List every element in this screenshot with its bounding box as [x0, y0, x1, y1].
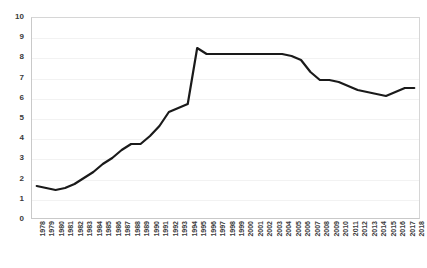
x-axis-tick-label: 1983 [86, 221, 93, 237]
x-axis-tick-label: 1984 [96, 221, 103, 237]
x-axis-tick-label: 1979 [48, 221, 55, 237]
x-axis-tick-label: 1986 [115, 221, 122, 237]
x-axis-tick-label: 2000 [247, 221, 254, 237]
x-axis-tick-label: 2009 [333, 221, 340, 237]
y-axis-tick-label: 5 [20, 114, 24, 122]
x-axis-tick-label: 1991 [162, 221, 169, 237]
x-axis-tick-label: 2005 [295, 221, 302, 237]
x-axis-tick-label: 2002 [266, 221, 273, 237]
y-axis-tick-label: 10 [15, 13, 24, 21]
x-axis-tick-label: 1990 [153, 221, 160, 237]
x-axis-tick-label: 1989 [143, 221, 150, 237]
x-axis-tick-label: 2012 [361, 221, 368, 237]
x-axis-tick-label: 1994 [191, 221, 198, 237]
x-axis-tick-label: 1999 [238, 221, 245, 237]
y-axis-tick-label: 1 [20, 195, 24, 203]
x-axis-tick-label: 2001 [257, 221, 264, 237]
x-axis-tick-label: 2014 [380, 221, 387, 237]
y-axis-tick-label: 2 [20, 175, 24, 183]
x-axis-tick-label: 2016 [399, 221, 406, 237]
plot-area [31, 17, 420, 219]
x-axis: 1978197919801981198219831984198519861987… [31, 221, 420, 268]
series-polyline [37, 48, 415, 190]
x-axis-tick-label: 2018 [418, 221, 425, 237]
y-axis-tick-label: 8 [20, 53, 24, 61]
data-series-line [32, 18, 419, 218]
x-axis-tick-label: 1982 [77, 221, 84, 237]
x-axis-tick-label: 2011 [352, 221, 359, 236]
y-axis-tick-label: 6 [20, 94, 24, 102]
x-axis-tick-label: 1995 [200, 221, 207, 237]
x-axis-tick-label: 1996 [210, 221, 217, 237]
x-axis-tick-label: 1987 [124, 221, 131, 237]
x-axis-tick-label: 1985 [105, 221, 112, 237]
y-axis-tick-label: 3 [20, 154, 24, 162]
y-axis-tick-label: 7 [20, 74, 24, 82]
x-axis-tick-label: 2006 [304, 221, 311, 237]
x-axis-tick-label: 1993 [181, 221, 188, 237]
x-axis-tick-label: 2013 [371, 221, 378, 237]
x-axis-tick-label: 2010 [342, 221, 349, 237]
x-axis-tick-label: 2017 [409, 221, 416, 237]
line-chart: 012345678910 197819791980198119821983198… [0, 0, 427, 268]
y-axis-tick-label: 4 [20, 134, 24, 142]
x-axis-tick-label: 1978 [39, 221, 46, 237]
x-axis-tick-label: 2003 [276, 221, 283, 237]
x-axis-tick-label: 1981 [67, 221, 74, 237]
x-axis-tick-label: 1998 [229, 221, 236, 237]
x-axis-tick-label: 1980 [58, 221, 65, 237]
y-axis-tick-label: 9 [20, 33, 24, 41]
y-axis: 012345678910 [0, 0, 28, 268]
x-axis-tick-label: 2008 [323, 221, 330, 237]
x-axis-tick-label: 2007 [314, 221, 321, 237]
x-axis-tick-label: 1992 [172, 221, 179, 237]
x-axis-tick-label: 2015 [390, 221, 397, 237]
x-axis-tick-label: 2004 [285, 221, 292, 237]
y-axis-tick-label: 0 [20, 215, 24, 223]
x-axis-tick-label: 1988 [134, 221, 141, 237]
x-axis-tick-label: 1997 [219, 221, 226, 237]
